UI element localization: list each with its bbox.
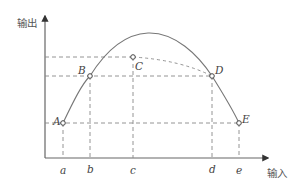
point-e-marker bbox=[237, 121, 242, 126]
tick-label-a: a bbox=[60, 165, 66, 176]
y-axis-label: 输出 bbox=[17, 15, 37, 30]
point-c-marker bbox=[131, 55, 136, 60]
tick-label-d: d bbox=[209, 164, 216, 175]
input-output-diagram bbox=[0, 0, 305, 185]
point-label-b: B bbox=[78, 65, 86, 76]
point-label-c: C bbox=[135, 61, 143, 72]
tick-label-e: e bbox=[236, 165, 242, 176]
point-label-a: A bbox=[53, 116, 61, 127]
point-label-e: E bbox=[242, 114, 250, 125]
point-label-d: D bbox=[215, 65, 223, 76]
tick-label-c: c bbox=[130, 165, 136, 176]
vertical-reference-lines bbox=[63, 57, 239, 158]
tick-label-b: b bbox=[87, 164, 94, 175]
point-d-marker bbox=[210, 74, 215, 79]
point-a-marker bbox=[61, 121, 66, 126]
point-b-marker bbox=[88, 74, 93, 79]
x-axis-label: 输入 bbox=[267, 165, 287, 180]
